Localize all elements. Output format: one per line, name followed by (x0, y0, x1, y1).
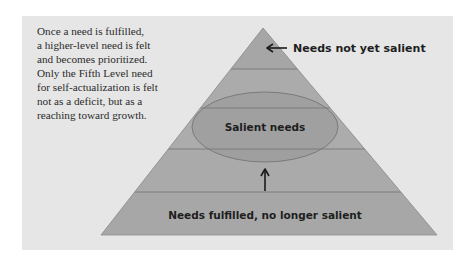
label-salient-needs: Salient needs (225, 121, 306, 133)
label-needs-fulfilled: Needs fulfilled, no longer salient (168, 209, 362, 221)
needs-pyramid-diagram: Needs not yet salient Salient needs Need… (0, 0, 474, 262)
label-not-yet-salient: Needs not yet salient (293, 42, 426, 55)
